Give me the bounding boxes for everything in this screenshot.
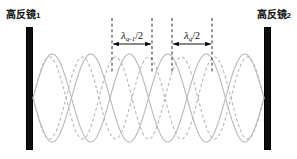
lambda-subscript-1: q-1 <box>126 35 135 43</box>
half-wavelength-q-minus-1-label: λq-1/2 <box>121 30 143 43</box>
lambda-divisor-2: /2 <box>192 30 200 41</box>
half-wavelength-q-label: λq/2 <box>184 30 200 43</box>
cavity-mode-diagram: 高反镜1 高反镜2 λq-1/2 λq/2 <box>0 0 297 159</box>
measurement-guide-lines <box>112 18 212 72</box>
measurement-annotations-layer <box>0 0 297 159</box>
lambda-divisor-1: /2 <box>135 30 143 41</box>
